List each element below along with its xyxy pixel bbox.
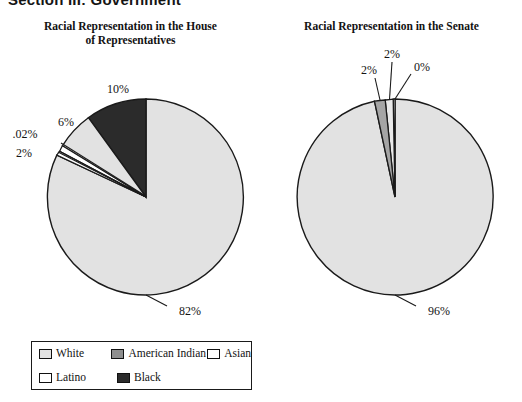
pie-label-white-house: 82% bbox=[179, 304, 201, 318]
legend-label: Black bbox=[134, 372, 161, 384]
legend-row: Latino Black bbox=[32, 366, 251, 390]
leader-line-asian-native-hawaiian-senate bbox=[390, 62, 393, 100]
pie-label-asian-house: 2% bbox=[16, 146, 32, 160]
legend-item-asian-house: Asian bbox=[207, 348, 251, 360]
legend-item-black-house: Black bbox=[117, 372, 161, 384]
figure-page: Section III: Government Racial Represent… bbox=[0, 0, 522, 402]
pie-label-latino-house: 6% bbox=[58, 115, 74, 129]
pie-label-white-senate: 96% bbox=[428, 304, 450, 318]
legend-swatch-american-indian-icon bbox=[111, 349, 124, 359]
pie-label-asian-native-hawaiian-senate: 2% bbox=[384, 47, 400, 61]
pie-chart-senate: 2% 2% 0% 96% bbox=[261, 0, 522, 402]
legend-item-latino-house: Latino bbox=[39, 372, 117, 384]
leader-line-white-senate bbox=[395, 295, 416, 306]
pie-label-asian-senate: 0% bbox=[414, 60, 430, 74]
legend-label: American Indian bbox=[128, 348, 206, 360]
legend-item-american-indian-house: American Indian bbox=[111, 348, 207, 360]
legend-house: White American Indian Asian Latino bbox=[31, 341, 252, 390]
legend-row: White American Indian Asian bbox=[32, 342, 251, 366]
legend-item-white-house: White bbox=[39, 348, 111, 360]
pie-label-black-house: 10% bbox=[107, 82, 129, 96]
leader-line-black-senate bbox=[375, 78, 380, 100]
legend-label: White bbox=[56, 348, 84, 360]
chart-panel-house: Racial Representation in the House of Re… bbox=[0, 0, 261, 402]
legend-swatch-latino-icon bbox=[39, 373, 52, 383]
chart-panel-senate: Racial Representation in the Senate bbox=[261, 0, 522, 402]
leader-line-white-house bbox=[146, 295, 167, 306]
legend-swatch-black-icon bbox=[117, 373, 130, 383]
legend-label: Latino bbox=[56, 372, 86, 384]
pie-label-american-indian-house: .02% bbox=[13, 127, 38, 141]
pie-label-black-senate: 2% bbox=[361, 63, 377, 77]
legend-label: Asian bbox=[224, 348, 251, 360]
legend-swatch-white-icon bbox=[39, 349, 52, 359]
leader-line-asian-senate bbox=[395, 74, 411, 99]
legend-swatch-asian-icon bbox=[207, 349, 220, 359]
